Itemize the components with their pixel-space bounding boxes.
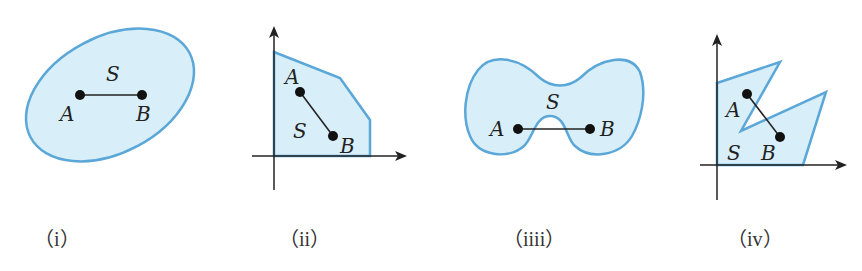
point-b-label: B <box>760 141 776 165</box>
figure-ii: A S B <box>252 28 405 190</box>
caption-iii: （iiii） <box>503 228 565 250</box>
point-a-dot <box>513 124 523 134</box>
convex-sets-diagram: S A B A S B S A B A S B （i） （ii） <box>0 0 862 271</box>
figure-iii: S A B <box>465 59 643 154</box>
figure-i: S A B <box>3 2 216 189</box>
caption-iv: （iv） <box>727 228 783 250</box>
point-b-dot <box>328 131 338 141</box>
set-label: S <box>546 90 560 114</box>
point-a-label: A <box>724 98 740 122</box>
caption-ii: （ii） <box>279 228 330 250</box>
point-b-label: B <box>599 117 615 141</box>
set-label: S <box>106 62 120 86</box>
point-a-dot <box>742 89 752 99</box>
point-a-label: A <box>283 65 299 89</box>
point-b-label: B <box>339 134 355 158</box>
caption-i: （i） <box>34 228 80 250</box>
point-b-dot <box>137 90 147 100</box>
point-a-dot <box>75 90 85 100</box>
point-b-dot <box>585 124 595 134</box>
point-b-dot <box>775 132 785 142</box>
set-label: S <box>293 119 307 143</box>
point-a-label: A <box>488 117 504 141</box>
point-a-label: A <box>58 102 74 126</box>
figure-iv: A S B <box>700 36 845 200</box>
point-b-label: B <box>135 102 151 126</box>
set-label: S <box>727 141 741 165</box>
